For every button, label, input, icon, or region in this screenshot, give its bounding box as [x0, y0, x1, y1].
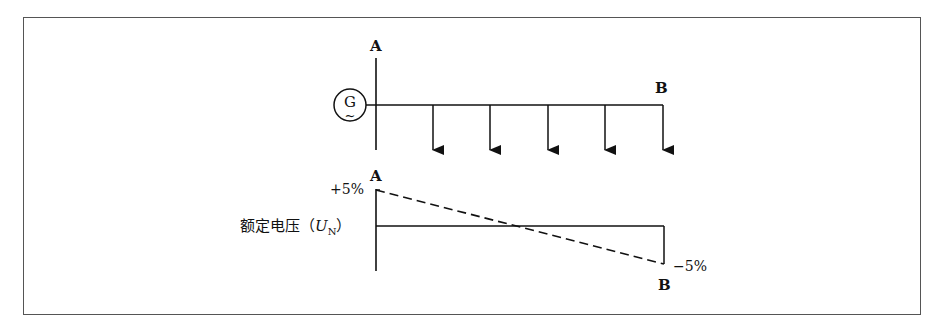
profile-node-b-label: B	[658, 276, 671, 294]
profile-node-a-label: A	[369, 167, 382, 185]
voltage-drop-dashed-line	[376, 190, 664, 264]
minus-five-label: −5%	[673, 258, 707, 274]
network-schematic: A G ~ B	[334, 37, 668, 150]
node-b-label: B	[655, 79, 668, 97]
voltage-profile: A +5% 额定电压（UN） −5% B	[240, 167, 707, 294]
voltage-distribution-diagram: A G ~ B A +5% 额定电压（UN） −5% B	[0, 0, 936, 336]
ac-symbol: ~	[345, 108, 356, 123]
rated-voltage-label: 额定电压（UN）	[240, 217, 351, 237]
plus-five-label: +5%	[330, 181, 364, 197]
node-a-label: A	[369, 37, 382, 55]
